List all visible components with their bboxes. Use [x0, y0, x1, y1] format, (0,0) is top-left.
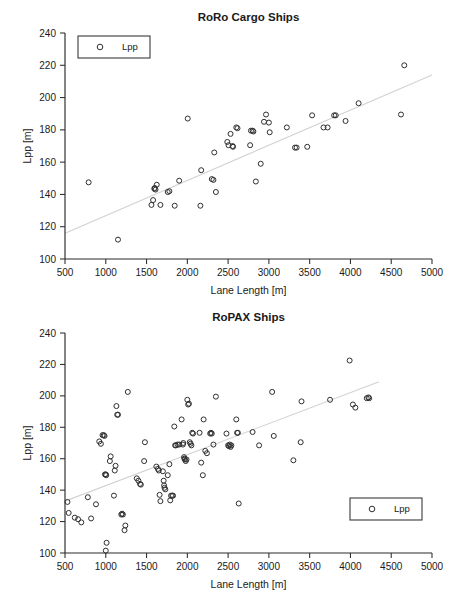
y-tick-label: 100 [39, 548, 56, 559]
data-point [267, 130, 272, 135]
data-point [298, 440, 303, 445]
x-tick-label: 2000 [176, 267, 199, 278]
data-point [66, 510, 71, 515]
data-point [123, 523, 128, 528]
data-point [158, 499, 163, 504]
data-point [356, 101, 361, 106]
y-tick-label: 200 [39, 390, 56, 401]
legend-entry-label: Lpp [394, 503, 410, 514]
y-tick-label: 160 [39, 157, 56, 168]
chart-title: RoRo Cargo Ships [198, 11, 300, 23]
data-point [142, 459, 147, 464]
data-point [107, 459, 112, 464]
data-point [114, 404, 119, 409]
data-point [122, 528, 127, 533]
y-tick-label: 160 [39, 453, 56, 464]
y-tick-label: 140 [39, 189, 56, 200]
data-point [253, 179, 258, 184]
x-tick-label: 4500 [380, 267, 403, 278]
x-tick-label: 3500 [299, 267, 322, 278]
data-point [172, 424, 177, 429]
data-point [157, 492, 162, 497]
data-point [213, 394, 218, 399]
data-point [262, 119, 267, 124]
data-point [198, 203, 203, 208]
data-point [234, 417, 239, 422]
data-point [258, 161, 263, 166]
data-point [177, 178, 182, 183]
x-tick-label: 5000 [421, 267, 444, 278]
data-point [158, 202, 163, 207]
x-tick-label: 1000 [95, 267, 118, 278]
data-series-lpp [65, 358, 372, 553]
x-tick-label: 5000 [421, 561, 444, 572]
data-point [125, 389, 130, 394]
data-point [270, 389, 275, 394]
data-point [271, 433, 276, 438]
y-tick-label: 140 [39, 485, 56, 496]
plot-surface: RoPAX Ships10012014016018020022024050010… [0, 302, 462, 605]
data-point [89, 516, 94, 521]
data-point [347, 358, 352, 363]
y-tick-label: 240 [39, 28, 56, 39]
x-axis-label: Lane Length [m] [211, 284, 287, 296]
chart-title: RoPAX Ships [212, 311, 285, 323]
plot-surface: RoRo Cargo Ships100120140160180200220240… [0, 0, 462, 302]
data-point [165, 473, 170, 478]
x-tick-label: 500 [57, 561, 74, 572]
data-point [402, 63, 407, 68]
data-series-lpp [86, 63, 407, 242]
x-tick-label: 4000 [339, 561, 362, 572]
y-tick-label: 220 [39, 60, 56, 71]
y-tick-label: 180 [39, 124, 56, 135]
data-point [225, 139, 230, 144]
x-tick-label: 2000 [176, 561, 199, 572]
data-point [172, 203, 177, 208]
legend-box [350, 498, 422, 520]
x-tick-label: 4000 [339, 267, 362, 278]
data-point [142, 440, 147, 445]
y-tick-label: 240 [39, 328, 56, 339]
data-point [399, 112, 404, 117]
data-point [199, 168, 204, 173]
data-point [248, 143, 253, 148]
data-point [167, 462, 172, 467]
data-point [228, 131, 233, 136]
data-point [86, 180, 91, 185]
legend-box [78, 36, 150, 58]
data-point [85, 495, 90, 500]
data-point [266, 120, 271, 125]
chart-page: RoRo Cargo Ships100120140160180200220240… [0, 0, 462, 605]
chart-ropax-ships: RoPAX Ships10012014016018020022024050010… [0, 302, 462, 605]
x-tick-label: 500 [57, 267, 74, 278]
y-tick-label: 120 [39, 516, 56, 527]
data-point [212, 150, 217, 155]
data-point [310, 113, 315, 118]
data-point [179, 417, 184, 422]
data-point [116, 237, 121, 242]
data-point [167, 189, 172, 194]
y-tick-label: 100 [39, 254, 56, 265]
x-tick-label: 4500 [380, 561, 403, 572]
data-point [149, 202, 154, 207]
data-point [79, 520, 84, 525]
y-axis-label: Lpp [m] [21, 128, 33, 163]
y-tick-label: 200 [39, 92, 56, 103]
data-point [305, 144, 310, 149]
x-tick-label: 2500 [217, 267, 240, 278]
data-point [93, 502, 98, 507]
data-point [343, 118, 348, 123]
data-point [199, 460, 204, 465]
y-tick-label: 120 [39, 221, 56, 232]
data-point [113, 463, 118, 468]
x-tick-label: 3000 [258, 267, 281, 278]
data-point [111, 493, 116, 498]
trend-line [65, 75, 432, 233]
data-point [108, 454, 113, 459]
x-axis-label: Lane Length [m] [211, 578, 287, 590]
data-point [291, 458, 296, 463]
x-tick-label: 3000 [258, 561, 281, 572]
data-point [201, 417, 206, 422]
data-point [213, 190, 218, 195]
chart-roro-cargo-ships: RoRo Cargo Ships100120140160180200220240… [0, 0, 462, 302]
